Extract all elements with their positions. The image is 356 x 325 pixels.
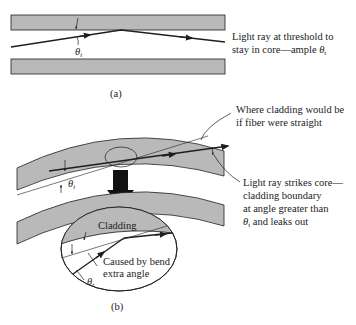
angle-arc-a <box>77 37 78 45</box>
light-ray-a <box>11 30 225 47</box>
callout-leak-line2: cladding boundary <box>243 190 322 201</box>
bottom-cladding <box>11 59 225 74</box>
callout-leak-line3: at angle greater than <box>243 203 329 214</box>
inset-bend-line2: extra angle <box>103 268 150 279</box>
ray-arrow-a2 <box>180 37 192 38</box>
callout-straight-line1: Where cladding would be <box>236 104 345 115</box>
callout-leader-straight <box>201 113 231 140</box>
inset-cladding-label: Cladding <box>98 220 137 231</box>
caption-a: (a) <box>110 88 122 100</box>
annotation-a-line1: Light ray at threshold to <box>232 31 333 42</box>
theta-label-b: θt <box>68 178 76 191</box>
callout-straight-line2: if fiber were straight <box>236 117 322 128</box>
caption-b: (b) <box>111 301 124 313</box>
inset-bend-line1: Caused by bend <box>103 256 171 267</box>
panel-b: θt Where cladding would be if fiber were… <box>17 104 345 313</box>
annotation-a-line2: stay in core—ample θt <box>232 44 326 57</box>
panel-a: θt Light ray at threshold to stay in cor… <box>11 15 333 100</box>
callout-leak-line1: Light ray strikes core— <box>243 177 344 188</box>
callout-leak-line4: θt and leaks out <box>243 216 308 229</box>
theta-label-a: θt <box>75 46 83 59</box>
top-cladding <box>11 15 225 30</box>
ray-arrow-a1 <box>80 35 90 37</box>
fiber-bend-diagram: θt Light ray at threshold to stay in cor… <box>0 0 356 325</box>
